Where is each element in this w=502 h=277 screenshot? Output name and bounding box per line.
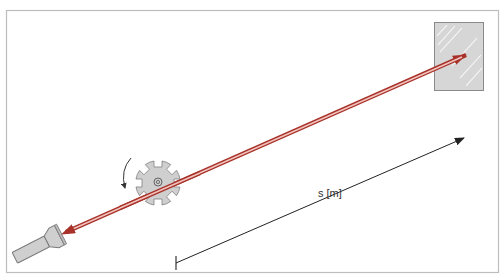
fizeau-diagram: s [m] bbox=[0, 0, 502, 277]
distance-label: s [m] bbox=[318, 187, 342, 199]
diagram-frame bbox=[7, 11, 499, 273]
